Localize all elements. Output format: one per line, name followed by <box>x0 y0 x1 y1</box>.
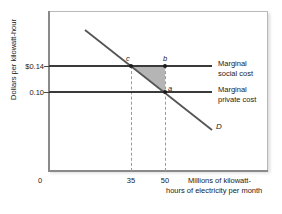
externality-chart-figure: Dollars per kilowatt-hour $0.14 0.10 c b… <box>0 0 282 214</box>
y-tick-label-0: $0.14 <box>25 62 44 71</box>
point-b-label: b <box>163 54 167 63</box>
dashed-line-q50 <box>165 66 166 171</box>
point-a-label: a <box>168 84 172 93</box>
marginal-private-cost-label: Marginalprivate cost <box>218 85 256 104</box>
mpc-label-line1: Marginal <box>218 85 247 94</box>
x-tick-label-1: 35 <box>116 176 146 185</box>
msc-label-line1: Marginal <box>218 59 247 68</box>
marginal-social-cost-label: Marginalsocial cost <box>218 59 253 78</box>
x-axis <box>48 170 268 172</box>
mpc-label-line2: private cost <box>218 95 256 104</box>
demand-curve-label: D <box>216 122 222 131</box>
point-b-marker <box>163 64 167 68</box>
y-tick-group-0: $0.14 <box>0 61 44 71</box>
y-tick-label-1: 0.10 <box>29 88 44 97</box>
x-axis-label: Millions of kilowatt-hours of electricit… <box>188 176 282 196</box>
y-tick-group-1: 0.10 <box>0 87 44 97</box>
x-tick-label-0: 0 <box>25 176 55 185</box>
msc-label-line2: social cost <box>218 69 253 78</box>
dashed-line-q35 <box>131 66 132 171</box>
point-c-label: c <box>126 54 130 63</box>
x-axis-label-line2: hours of electricity per month <box>166 186 282 196</box>
x-axis-label-line1: Millions of kilowatt- <box>188 176 251 185</box>
y-axis-label: Dollars per kilowatt-hour <box>9 0 18 120</box>
marginal-private-cost-line <box>49 91 212 93</box>
x-tick-label-2: 50 <box>150 176 180 185</box>
point-c-marker <box>129 64 133 68</box>
point-a-marker <box>163 90 167 94</box>
